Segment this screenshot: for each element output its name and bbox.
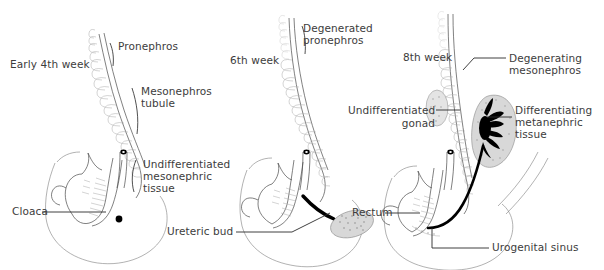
- label-cloaca: Cloaca: [12, 205, 48, 218]
- label-ureteric-bud: Ureteric bud: [167, 225, 233, 238]
- ureteric-bud-stroke: [303, 196, 334, 219]
- label-differentiating-metanephric-line3: tissue: [515, 128, 547, 141]
- stage-label-6th-week: 6th week: [230, 54, 279, 67]
- anatomical-line-drawing: [0, 0, 604, 270]
- label-undiff-mesonephric-line3: tissue: [143, 182, 175, 195]
- ureteric-bud-leader: [236, 213, 330, 232]
- label-mesonephros-tubule-line2: tubule: [141, 97, 175, 110]
- mesonephros-coils: [281, 60, 330, 187]
- label-differentiating-metanephric-line1: Differentiating: [515, 104, 592, 117]
- label-undifferentiated-gonad-line2: gonad: [348, 117, 435, 130]
- stage-label-8th-week: 8th week: [403, 51, 452, 64]
- embryology-figure: Early 4th week Pronephros Mesonephros tu…: [0, 0, 604, 270]
- label-pronephros: Pronephros: [118, 40, 178, 53]
- label-degenerated-pronephros-line1: Degenerated: [303, 22, 373, 35]
- label-degenerated-pronephros-line2: pronephros: [303, 34, 364, 47]
- rectum-hatching: [412, 196, 434, 224]
- undiff-meso-bracket: [132, 160, 136, 192]
- degenerated-pronephros-coils: [279, 15, 290, 59]
- ug-sinus-leader: [432, 228, 489, 248]
- metanephros-shape: [472, 95, 517, 167]
- label-urogenital-sinus: Urogenital sinus: [492, 241, 578, 254]
- label-undifferentiated-gonad-line1: Undifferentiated: [348, 104, 435, 117]
- label-differentiating-metanephric-line2: metanephric: [515, 116, 583, 129]
- degenerating-pronephros-coils: [438, 11, 447, 48]
- degen-meso-leader: [463, 58, 506, 70]
- label-undiff-mesonephric-line1: Undifferentiated: [143, 158, 230, 171]
- label-undiff-mesonephric-line2: mesonephric: [143, 170, 212, 183]
- ureter-stroke: [428, 146, 483, 228]
- mesonephros-bracket: [132, 88, 138, 134]
- label-mesonephros-tubule-line1: Mesonephros: [141, 85, 212, 98]
- label-degenerating-mesonephros-line1: Degenerating: [509, 52, 582, 65]
- stage-label-early-4th-week: Early 4th week: [10, 58, 90, 71]
- label-degenerating-mesonephros-line2: mesonephros: [509, 64, 581, 77]
- label-rectum: Rectum: [352, 206, 393, 219]
